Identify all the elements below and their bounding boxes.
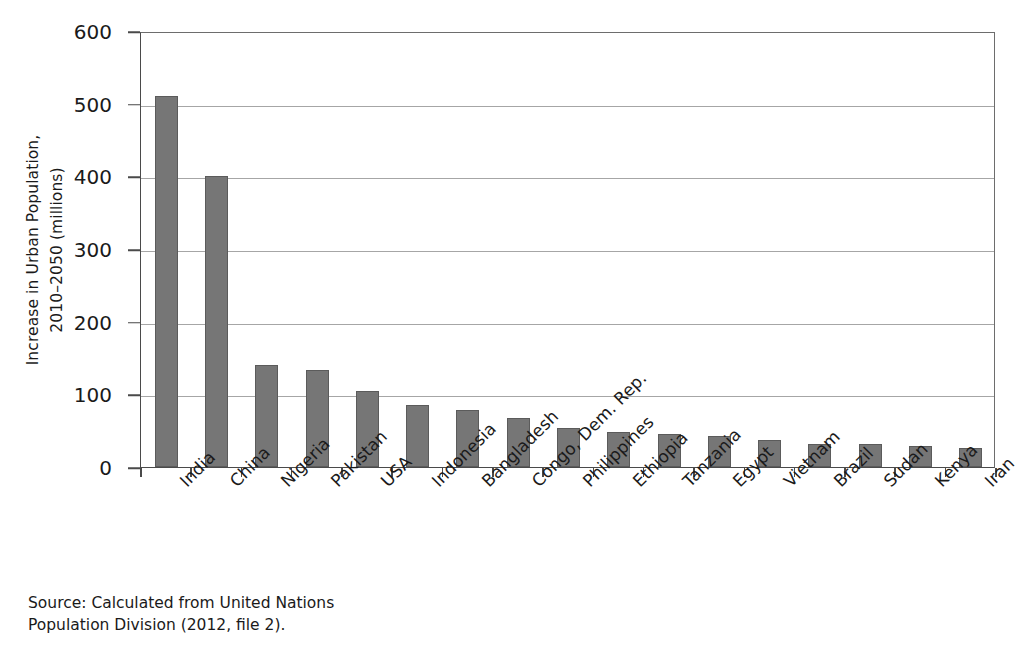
x-axis-label-bangladesh: Bangladesh <box>479 478 491 490</box>
y-tick-label-600: 600 <box>74 22 112 42</box>
y-tick-mark-200 <box>128 322 140 324</box>
x-axis-labels: IndiaChinaNigeriaPakistanUSAIndonesiaBan… <box>140 478 1000 588</box>
x-axis-label-usa: USA <box>378 478 390 490</box>
y-tick-mark-100 <box>128 395 140 397</box>
x-axis-label-iran: Iran <box>982 478 994 490</box>
y-tick-mark-0 <box>128 467 140 469</box>
source-note: Source: Calculated from United Nations P… <box>28 592 334 637</box>
x-axis-label-kenya: Kenya <box>932 478 944 490</box>
bar-india <box>155 96 178 467</box>
x-axis-label-vietnam: Vietnam <box>781 478 793 490</box>
bar-chart-figure: Increase in Urban Population, 2010–2050 … <box>0 0 1023 661</box>
bar-indonesia <box>406 405 429 467</box>
bar-series <box>141 33 994 467</box>
x-axis-label-nigeria: Nigeria <box>278 478 290 490</box>
x-axis-ticks <box>140 468 995 478</box>
y-tick-label-0: 0 <box>99 458 112 478</box>
y-tick-mark-300 <box>128 249 140 251</box>
y-tick-label-100: 100 <box>74 385 112 405</box>
x-axis-label-china: China <box>227 478 239 490</box>
x-axis-label-pakistan: Pakistan <box>328 478 340 490</box>
x-axis-label-india: India <box>177 478 189 490</box>
x-axis-label-brazil: Brazil <box>831 478 843 490</box>
y-tick-label-200: 200 <box>74 313 112 333</box>
y-tick-mark-500 <box>128 104 140 106</box>
y-tick-label-300: 300 <box>74 240 112 260</box>
y-axis-ticks: 0100200300400500600 <box>0 0 140 661</box>
y-tick-label-400: 400 <box>74 167 112 187</box>
y-tick-mark-600 <box>128 31 140 33</box>
plot-area <box>140 32 995 468</box>
x-axis-label-tanzania: Tanzania <box>680 478 692 490</box>
y-tick-mark-400 <box>128 177 140 179</box>
x-axis-label-philippines: Philippines <box>580 478 592 490</box>
x-axis-label-congo-dem-rep: Congo, Dem. Rep. <box>529 478 541 490</box>
x-axis-label-indonesia: Indonesia <box>429 478 441 490</box>
x-axis-label-sudan: Sudan <box>881 478 893 490</box>
bar-china <box>205 176 228 467</box>
x-tick-mark-0 <box>140 468 142 477</box>
x-axis-label-egypt: Egypt <box>730 478 742 490</box>
x-axis-label-ethiopia: Ethiopia <box>630 478 642 490</box>
y-tick-label-500: 500 <box>74 95 112 115</box>
